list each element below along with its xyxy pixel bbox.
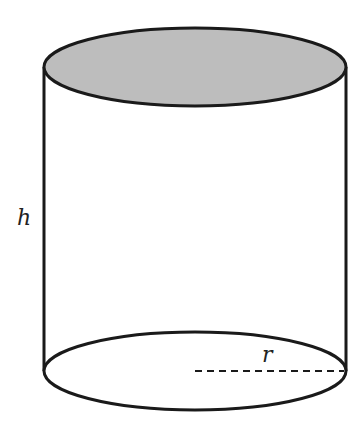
radius-label: r xyxy=(262,342,274,367)
cylinder-diagram: h r xyxy=(0,0,364,434)
cylinder-top-base xyxy=(44,28,346,106)
height-label: h xyxy=(17,205,31,230)
